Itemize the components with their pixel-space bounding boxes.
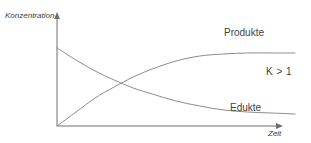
y-axis-label: Konzentration xyxy=(5,12,54,20)
y-axis-arrow-icon xyxy=(54,12,60,19)
plot-area xyxy=(0,0,311,143)
concentration-time-diagram: Konzentration Zeit Produkte Edukte K > 1 xyxy=(0,0,311,143)
series-curve-produkte xyxy=(57,53,295,126)
x-axis-label: Zeit xyxy=(268,130,281,138)
series-label-produkte: Produkte xyxy=(224,28,264,38)
series-label-edukte: Edukte xyxy=(230,103,261,113)
equilibrium-constant-annotation: K > 1 xyxy=(266,67,292,77)
